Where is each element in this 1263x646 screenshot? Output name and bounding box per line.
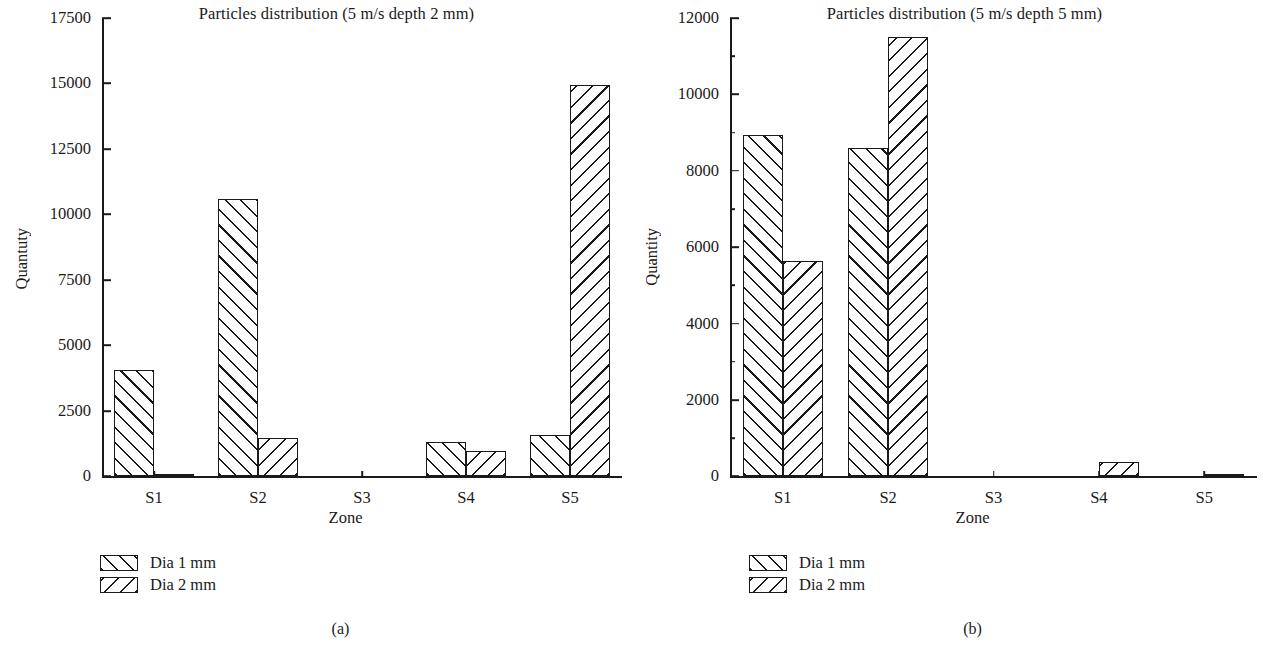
y-tick-label: 5000 [58,335,102,355]
x-tick-label: S3 [353,488,370,508]
x-tick-label: S2 [879,488,896,508]
panel-a: Particles distribution (5 m/s depth 2 mm… [0,0,631,646]
bar-S5-dia-1-mm [530,435,570,477]
plot-area-a: 025005000750010000125001500017500S1S2S3S… [102,18,622,478]
x-tick-mark [361,471,363,478]
y-tick-mark [102,279,111,281]
bar-S2-dia-1-mm [848,148,888,477]
legend-swatch-icon [100,555,138,571]
legend-b: Dia 1 mmDia 2 mm [749,552,865,596]
bar-S2-dia-2-mm [258,438,298,477]
y-tick-mark [102,148,111,150]
y-tick-label: 8000 [686,161,730,181]
y-tick-mark [730,170,739,172]
y-tick-label: 12500 [50,139,102,159]
y-tick-label: 0 [83,466,102,486]
bar-S2-dia-1-mm [218,199,258,477]
legend-item: Dia 1 mm [100,552,216,574]
y-tick-label: 7500 [58,270,102,290]
y-tick-label: 10000 [678,84,730,104]
legend-label: Dia 1 mm [799,553,865,573]
y-tick-mark [730,17,739,19]
bar-S4-dia-2-mm [466,451,506,476]
x-tick-label: S1 [145,488,162,508]
y-tick-mark [730,323,739,325]
y-tick-mark [102,17,111,19]
y-tick-label: 12000 [678,8,730,28]
panel-b: Particles distribution (5 m/s depth 5 mm… [632,0,1263,646]
y-tick-mark [730,94,739,96]
legend-label: Dia 1 mm [150,553,216,573]
legend-item: Dia 2 mm [749,574,865,596]
y-axis-line-b [730,18,732,478]
y-tick-mark [102,214,111,216]
legend-swatch-icon [100,577,138,593]
y-tick-label: 0 [711,466,730,486]
x-tick-label: S5 [1196,488,1213,508]
bar-S1-dia-2-mm [154,474,194,477]
bar-S1-dia-1-mm [114,370,154,476]
bar-S5-dia-2-mm [570,85,610,477]
legend-item: Dia 2 mm [100,574,216,596]
x-tick-label: S4 [457,488,474,508]
y-tick-mark-minor [730,361,735,363]
legend-swatch-icon [749,577,787,593]
x-axis-label-b: Zone [632,508,1263,528]
y-tick-mark [102,83,111,85]
legend-a: Dia 1 mmDia 2 mm [100,552,216,596]
y-tick-label: 6000 [686,237,730,257]
legend-swatch-icon [749,555,787,571]
x-tick-label: S3 [985,488,1002,508]
legend-label: Dia 2 mm [150,575,216,595]
y-tick-mark-minor [730,132,735,134]
y-tick-mark-minor [730,437,735,439]
y-tick-mark [730,246,739,248]
y-tick-label: 10000 [50,204,102,224]
y-tick-label: 15000 [50,73,102,93]
y-tick-label: 2000 [686,390,730,410]
y-tick-mark [730,476,739,478]
x-tick-label: S1 [774,488,791,508]
bar-S1-dia-1-mm [743,135,783,476]
bar-S1-dia-2-mm [783,261,823,477]
y-tick-mark-minor [730,55,735,57]
y-tick-label: 4000 [686,314,730,334]
subcaption-a: (a) [0,620,631,638]
y-axis-line-a [102,18,104,478]
bar-S5-dia-2-mm [1204,474,1244,477]
x-tick-label: S4 [1090,488,1107,508]
x-tick-mark [993,471,995,478]
y-axis-label-a: Quantuty [12,228,32,289]
y-tick-mark [102,345,111,347]
legend-item: Dia 1 mm [749,552,865,574]
subcaption-b: (b) [632,620,1263,638]
y-tick-mark [102,410,111,412]
y-tick-mark [730,399,739,401]
bar-S4-dia-1-mm [426,442,466,477]
bar-S2-dia-2-mm [888,37,928,476]
x-axis-label-a: Zone [0,508,631,528]
x-tick-label: S5 [561,488,578,508]
x-tick-label: S2 [249,488,266,508]
y-tick-label: 17500 [50,8,102,28]
plot-area-b: 020004000600080001000012000S1S2S3S4S5 [730,18,1257,478]
y-axis-label-b: Quantity [642,228,662,286]
y-tick-mark-minor [730,208,735,210]
bar-S4-dia-2-mm [1099,462,1139,477]
y-tick-mark-minor [730,285,735,287]
figure-two-panel-bar-charts: Particles distribution (5 m/s depth 2 mm… [0,0,1263,646]
legend-label: Dia 2 mm [799,575,865,595]
y-tick-label: 2500 [58,401,102,421]
y-tick-mark [102,476,111,478]
